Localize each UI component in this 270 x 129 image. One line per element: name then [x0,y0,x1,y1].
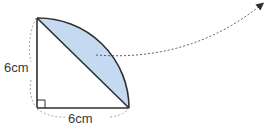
dashed-arrow [96,5,261,56]
right-angle-marker [37,100,45,108]
left-side-length-label: 6cm [4,61,29,74]
left-dimension-bracket [29,18,37,108]
bottom-side-length-label: 6cm [68,112,93,125]
quarter-circle-diagram [0,0,270,129]
